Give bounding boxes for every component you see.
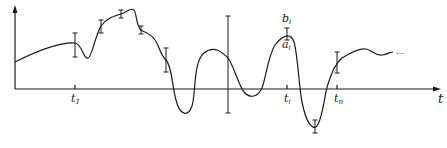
lower-bound-sub: i [289, 44, 291, 52]
axes [13, 5, 442, 92]
y-axis-arrow-icon [13, 5, 18, 13]
error-bars [73, 10, 340, 133]
tick-label-tn: tn [334, 93, 343, 106]
lower-bound-label: ai [282, 39, 291, 52]
upper-bound-sub: i [289, 18, 291, 26]
upper-bound-base: b [282, 12, 289, 25]
error-bar [335, 52, 340, 73]
error-bar [99, 20, 104, 33]
error-bar [73, 33, 78, 57]
tick-label-sub: 1 [75, 98, 79, 106]
error-bar [226, 16, 231, 113]
tick-label-sub: i [288, 98, 290, 106]
upper-bound-label: bi [282, 13, 291, 26]
error-bar [164, 48, 169, 72]
diagram-canvas: … [0, 0, 447, 148]
tick-label-t1: t1 [71, 93, 80, 106]
tick-label-sub: n [338, 98, 343, 106]
continuation-dots: … [396, 47, 404, 56]
tick-label-ti: ti [284, 93, 291, 106]
x-axis-label: t [438, 92, 443, 105]
function-curve [15, 9, 393, 127]
